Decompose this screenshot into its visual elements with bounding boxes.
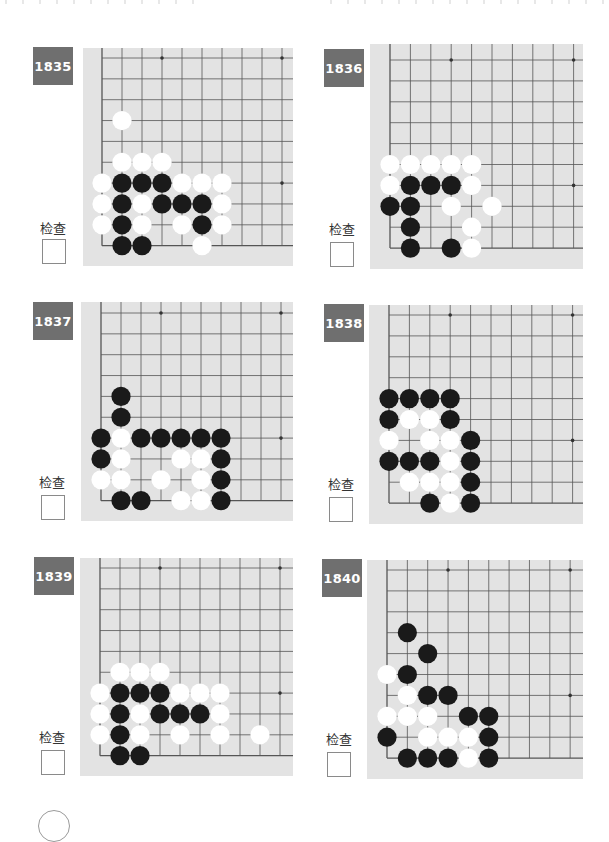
white-stone-icon [210, 704, 229, 723]
white-stone-icon [441, 473, 460, 492]
check-checkbox[interactable] [329, 497, 353, 522]
check-checkbox[interactable] [42, 239, 66, 264]
white-stone-icon [111, 449, 130, 468]
white-stone-icon [462, 176, 481, 195]
go-board[interactable] [80, 558, 293, 776]
white-stone-icon [210, 725, 229, 744]
white-stone-icon [171, 449, 190, 468]
board-grid [370, 44, 583, 269]
black-stone-icon [401, 197, 420, 216]
white-stone-icon [459, 749, 478, 768]
star-point-icon [571, 313, 575, 317]
white-stone-icon [398, 686, 417, 705]
white-stone-icon [171, 491, 190, 510]
black-stone-icon [400, 389, 419, 408]
white-stone-icon [250, 725, 269, 744]
white-stone-icon [442, 155, 461, 174]
white-stone-icon [90, 725, 109, 744]
black-stone-icon [130, 746, 149, 765]
board-grid [367, 560, 583, 779]
star-point-icon [446, 568, 450, 572]
board-grid [81, 302, 293, 521]
white-stone-icon [191, 449, 210, 468]
board-grid [80, 558, 293, 776]
page-number-circle [38, 810, 70, 842]
white-stone-icon [132, 153, 151, 172]
go-board[interactable] [81, 302, 293, 521]
white-stone-icon [418, 728, 437, 747]
check-checkbox[interactable] [41, 750, 65, 775]
white-stone-icon [212, 174, 231, 193]
black-stone-icon [380, 197, 399, 216]
cut-off-header-remnant-right [330, 0, 605, 4]
white-stone-icon [212, 215, 231, 234]
white-stone-icon [441, 452, 460, 471]
black-stone-icon [379, 389, 398, 408]
white-stone-icon [110, 663, 129, 682]
white-stone-icon [420, 473, 439, 492]
go-board[interactable] [367, 560, 583, 779]
white-stone-icon [379, 431, 398, 450]
white-stone-icon [92, 194, 111, 213]
cut-off-header-remnant-left [5, 0, 205, 4]
black-stone-icon [132, 174, 151, 193]
black-stone-icon [418, 686, 437, 705]
star-point-icon [572, 58, 576, 62]
check-checkbox[interactable] [41, 495, 65, 520]
white-stone-icon [111, 470, 130, 489]
problem-number-badge: 1836 [324, 49, 364, 87]
white-stone-icon [459, 728, 478, 747]
check-label: 检查 [321, 474, 361, 493]
black-stone-icon [479, 728, 498, 747]
go-board[interactable] [370, 44, 583, 269]
star-point-icon [572, 184, 576, 188]
black-stone-icon [442, 176, 461, 195]
black-stone-icon [132, 236, 151, 255]
star-point-icon [449, 58, 453, 62]
white-stone-icon [212, 194, 231, 213]
black-stone-icon [379, 410, 398, 429]
star-point-icon [280, 181, 284, 185]
go-board[interactable] [83, 48, 293, 266]
black-stone-icon [91, 429, 110, 448]
black-stone-icon [211, 470, 230, 489]
black-stone-icon [398, 665, 417, 684]
black-stone-icon [461, 473, 480, 492]
black-stone-icon [130, 684, 149, 703]
white-stone-icon [90, 704, 109, 723]
white-stone-icon [192, 174, 211, 193]
black-stone-icon [418, 644, 437, 663]
check-checkbox[interactable] [327, 752, 351, 777]
white-stone-icon [442, 197, 461, 216]
check-label: 检查 [322, 219, 362, 238]
black-stone-icon [211, 449, 230, 468]
black-stone-icon [191, 429, 210, 448]
black-stone-icon [459, 707, 478, 726]
black-stone-icon [441, 389, 460, 408]
black-stone-icon [461, 494, 480, 513]
black-stone-icon [438, 749, 457, 768]
black-stone-icon [111, 491, 130, 510]
white-stone-icon [380, 155, 399, 174]
check-checkbox[interactable] [330, 242, 354, 267]
board-grid [369, 305, 583, 524]
black-stone-icon [171, 429, 190, 448]
black-stone-icon [110, 746, 129, 765]
black-stone-icon [442, 239, 461, 258]
problem-number-badge: 1839 [34, 557, 74, 595]
white-stone-icon [170, 725, 189, 744]
white-stone-icon [482, 197, 501, 216]
black-stone-icon [461, 452, 480, 471]
black-stone-icon [150, 704, 169, 723]
black-stone-icon [479, 749, 498, 768]
star-point-icon [159, 311, 163, 315]
white-stone-icon [441, 431, 460, 450]
black-stone-icon [110, 684, 129, 703]
check-label: 检查 [319, 729, 359, 748]
go-board[interactable] [369, 305, 583, 524]
black-stone-icon [192, 215, 211, 234]
white-stone-icon [420, 410, 439, 429]
white-stone-icon [191, 491, 210, 510]
black-stone-icon [401, 218, 420, 237]
problem-number-badge: 1837 [33, 302, 73, 340]
